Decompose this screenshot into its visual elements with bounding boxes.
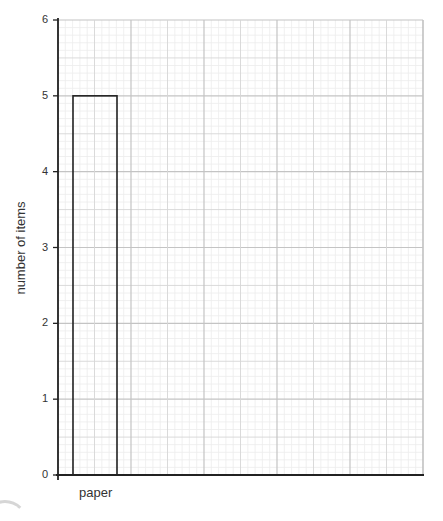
y-tick-label: 1	[28, 392, 48, 404]
y-axis-label: number of items	[13, 201, 28, 294]
y-tick-label: 2	[28, 316, 48, 328]
x-category-label: paper	[79, 485, 112, 500]
y-tick-label: 3	[28, 241, 48, 253]
axes	[53, 18, 424, 480]
y-tick-label: 4	[28, 165, 48, 177]
bar-chart	[0, 0, 443, 521]
y-tick-label: 6	[28, 13, 48, 25]
y-tick-label: 5	[28, 89, 48, 101]
y-tick-label: 0	[28, 468, 48, 480]
